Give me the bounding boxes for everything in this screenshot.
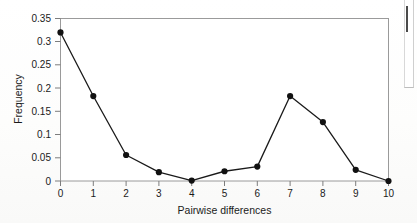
frequency-line-chart: 0 0.05 0.1 0.15 0.2 0.25 0.3 0.35 0 1	[0, 0, 417, 223]
data-point	[221, 168, 227, 174]
x-tick-label: 7	[287, 188, 293, 199]
x-axis-title: Pairwise differences	[178, 204, 272, 216]
figure-container: 0 0.05 0.1 0.15 0.2 0.25 0.3 0.35 0 1	[0, 0, 417, 223]
y-axis-ticks	[55, 19, 61, 182]
y-tick-label: 0.15	[32, 106, 52, 117]
y-tick-label: 0.3	[37, 36, 51, 47]
y-tick-label: 0.1	[37, 129, 51, 140]
x-tick-label: 1	[91, 188, 97, 199]
x-tick-label: 2	[123, 188, 129, 199]
data-point	[123, 152, 129, 158]
data-point	[90, 93, 96, 99]
y-tick-label: 0.25	[32, 59, 52, 70]
x-tick-label: 8	[320, 188, 326, 199]
x-tick-label: 9	[353, 188, 359, 199]
y-tick-label: 0	[45, 176, 51, 187]
scan-edge-artifact	[404, 0, 414, 88]
data-point	[320, 119, 326, 125]
x-tick-label: 6	[255, 188, 261, 199]
data-point	[353, 167, 359, 173]
x-tick-label: 10	[383, 188, 395, 199]
data-point	[57, 29, 63, 35]
x-axis-ticks	[61, 181, 389, 186]
x-axis-tick-labels: 0 1 2 3 4 5 6 7 8 9 10	[58, 188, 395, 199]
y-tick-label: 0.2	[37, 83, 51, 94]
data-point	[189, 177, 195, 183]
data-point	[156, 169, 162, 175]
x-tick-label: 0	[58, 188, 64, 199]
data-point	[254, 164, 260, 170]
data-point	[287, 93, 293, 99]
plot-frame	[61, 19, 389, 182]
data-point	[385, 178, 391, 184]
y-axis-tick-labels: 0 0.05 0.1 0.15 0.2 0.25 0.3 0.35	[32, 13, 52, 187]
scan-edge-bar	[406, 6, 408, 32]
x-tick-label: 5	[222, 188, 228, 199]
y-axis-title: Frequency	[12, 73, 24, 123]
x-tick-label: 4	[189, 188, 195, 199]
y-tick-label: 0.05	[32, 152, 52, 163]
y-tick-label: 0.35	[32, 13, 52, 24]
x-tick-label: 3	[156, 188, 162, 199]
